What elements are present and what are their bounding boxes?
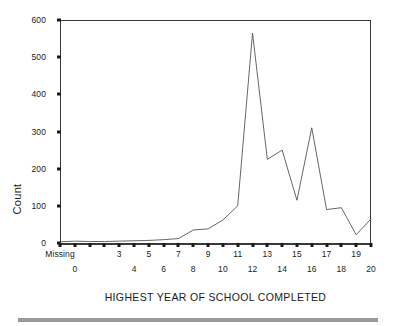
y-tick-label: 600 [32, 16, 46, 25]
x-tick-label: 20 [366, 265, 376, 274]
x-tick-mark [281, 243, 284, 247]
plot-area [60, 20, 371, 243]
x-tick-mark [177, 243, 180, 247]
y-tick-mark [57, 130, 61, 133]
x-tick-mark [251, 243, 254, 247]
x-tick-label: 18 [337, 265, 347, 274]
x-axis: Missing034567891011121314151617181920 [0, 243, 395, 283]
x-tick-mark [133, 243, 136, 247]
x-tick-label: 16 [307, 265, 317, 274]
y-tick-label: 300 [32, 127, 46, 136]
x-tick-mark [236, 243, 239, 247]
x-tick-label: 15 [292, 250, 302, 259]
x-tick-mark [162, 243, 165, 247]
chart-figure: 0100200300400500600 Count Missing0345678… [0, 0, 395, 326]
x-tick-label: 17 [322, 250, 332, 259]
x-tick-label: 11 [233, 250, 242, 259]
x-tick-mark [266, 243, 269, 247]
x-tick-mark [192, 243, 195, 247]
x-tick-label: 19 [351, 250, 361, 259]
y-axis: 0100200300400500600 [0, 0, 60, 260]
x-tick-label: 7 [176, 250, 181, 259]
x-tick-label: 13 [263, 250, 273, 259]
x-tick-mark [88, 243, 91, 247]
x-tick-mark [118, 243, 121, 247]
y-tick-label: 500 [32, 53, 46, 62]
x-tick-label: Missing [45, 250, 75, 259]
y-tick-mark [57, 93, 61, 96]
y-tick-mark [57, 167, 61, 170]
x-tick-mark [310, 243, 313, 247]
x-tick-label: 12 [248, 265, 258, 274]
x-tick-mark [325, 243, 328, 247]
x-tick-mark [340, 243, 343, 247]
x-tick-label: 5 [146, 250, 151, 259]
x-tick-label: 10 [218, 265, 228, 274]
y-tick-mark [57, 56, 61, 59]
y-axis-title: Count [11, 169, 23, 229]
x-tick-mark [59, 243, 62, 247]
y-tick-label: 200 [32, 164, 46, 173]
x-tick-mark [207, 243, 210, 247]
x-tick-mark [221, 243, 224, 247]
x-tick-mark [73, 243, 76, 247]
x-tick-label: 9 [206, 250, 211, 259]
x-tick-mark [370, 243, 373, 247]
x-tick-label: 14 [277, 265, 287, 274]
y-tick-mark [57, 204, 61, 207]
x-tick-mark [355, 243, 358, 247]
x-axis-title: HIGHEST YEAR OF SCHOOL COMPLETED [60, 291, 371, 303]
y-tick-mark [57, 19, 61, 22]
x-tick-mark [103, 243, 106, 247]
y-tick-label: 100 [32, 202, 46, 211]
x-tick-label: 6 [161, 265, 166, 274]
x-tick-label: 0 [72, 265, 77, 274]
x-tick-label: 4 [132, 265, 137, 274]
footer-rule [18, 318, 378, 322]
x-tick-label: 3 [117, 250, 122, 259]
y-tick-label: 400 [32, 90, 46, 99]
x-tick-label: 8 [191, 265, 196, 274]
x-tick-mark [147, 243, 150, 247]
x-tick-mark [295, 243, 298, 247]
